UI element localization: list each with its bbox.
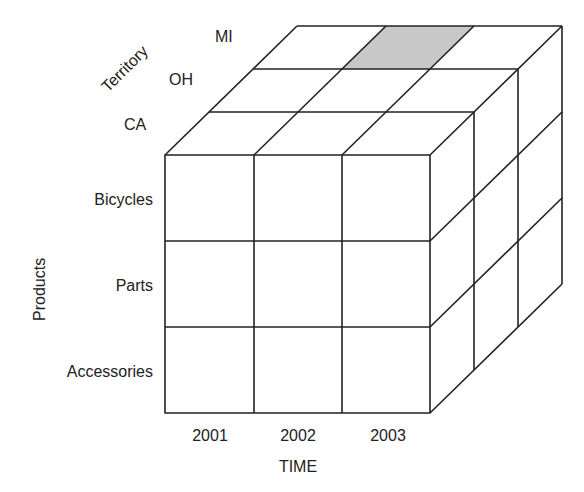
cube-lines [165, 26, 562, 413]
territory-label-ca: CA [124, 116, 147, 133]
product-label-accessories: Accessories [67, 363, 153, 380]
time-label-2002: 2002 [280, 427, 316, 444]
time-label-2003: 2003 [370, 427, 406, 444]
olap-cube-diagram: Territory MI OH CA Products Bicycles Par… [0, 0, 584, 492]
territory-label-oh: OH [169, 71, 193, 88]
time-label-2001: 2001 [192, 427, 228, 444]
product-label-bicycles: Bicycles [94, 191, 153, 208]
territory-label-mi: MI [215, 28, 233, 45]
vertical-axis-title: Products [31, 258, 48, 321]
highlighted-cell-mi-2002 [341, 26, 474, 69]
horizontal-axis-title: TIME [279, 458, 317, 475]
product-label-parts: Parts [116, 277, 153, 294]
front-face [165, 155, 430, 413]
depth-axis-title: Territory [98, 42, 151, 95]
